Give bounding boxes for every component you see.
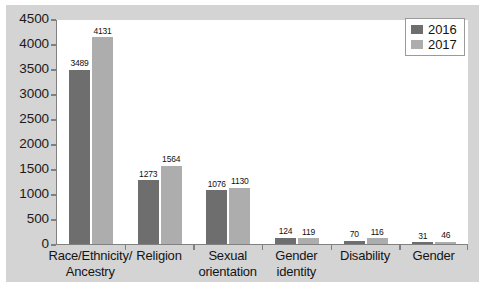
bar-value-label: 119 <box>302 227 315 237</box>
x-axis-labels: Race/Ethnicity/AncestryReligionSexualori… <box>56 248 468 282</box>
y-axis-tick-label: 4500 <box>19 11 49 26</box>
bar-value-label: 1076 <box>208 179 226 189</box>
bar-2017-4: 119 <box>298 238 319 244</box>
y-axis-tick-label: 3000 <box>19 86 49 101</box>
bar-group: 12731564 <box>126 20 195 244</box>
bar-2017-3: 1130 <box>229 188 250 245</box>
bar-value-label: 124 <box>279 226 293 236</box>
bar-2017-5: 116 <box>367 238 388 244</box>
bar-2016-1: 3489 <box>69 70 90 244</box>
y-axis-tick-label: 500 <box>27 211 49 226</box>
bar-group: 34894131 <box>57 20 126 244</box>
chart-figure: 050010001500200025003000350040004500 348… <box>6 5 479 282</box>
y-axis-tick-label: 2000 <box>19 136 49 151</box>
legend-label-2017: 2017 <box>428 37 457 52</box>
bar-value-label: 1273 <box>139 169 157 179</box>
bar-2016-4: 124 <box>275 238 296 244</box>
bar-2016-3: 1076 <box>206 190 227 244</box>
bar-value-label: 1564 <box>162 154 180 164</box>
chart-legend: 2016 2017 <box>405 18 465 56</box>
y-axis-tick-label: 1000 <box>19 186 49 201</box>
bar-value-label: 31 <box>418 231 427 241</box>
bar-group: 124119 <box>263 20 332 244</box>
bar-2016-6: 31 <box>412 242 433 244</box>
legend-swatch-2017 <box>411 40 423 49</box>
bar-value-label: 46 <box>441 230 450 240</box>
legend-item-2016: 2016 <box>411 22 457 37</box>
x-axis-category-label: Gender <box>389 248 478 264</box>
bar-value-label: 70 <box>350 229 359 239</box>
legend-label-2016: 2016 <box>428 22 457 37</box>
legend-item-2017: 2017 <box>411 37 457 52</box>
bar-group: 70116 <box>332 20 401 244</box>
legend-swatch-2016 <box>411 25 423 34</box>
y-axis: 050010001500200025003000350040004500 <box>6 20 56 245</box>
caption-strip <box>0 286 485 296</box>
bar-2017-2: 1564 <box>161 166 182 244</box>
bar-value-label: 3489 <box>70 58 88 68</box>
bar-2017-1: 4131 <box>92 37 113 244</box>
y-axis-tick-label: 1500 <box>19 161 49 176</box>
bar-value-label: 1130 <box>231 176 248 186</box>
y-axis-tick-label: 2500 <box>19 111 49 126</box>
y-axis-tick-label: 4000 <box>19 36 49 51</box>
bar-value-label: 4131 <box>93 26 111 36</box>
bar-group: 10761130 <box>194 20 263 244</box>
bar-2016-5: 70 <box>344 241 365 245</box>
bar-2017-6: 46 <box>435 242 456 244</box>
bar-2016-2: 1273 <box>138 180 159 244</box>
y-axis-tick-label: 3500 <box>19 61 49 76</box>
bar-value-label: 116 <box>371 227 384 237</box>
